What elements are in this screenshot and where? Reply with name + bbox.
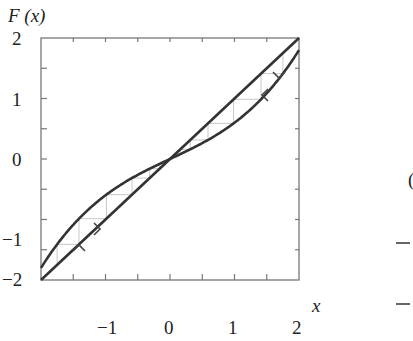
x-tick-label: 0 — [164, 317, 174, 338]
y-tick-label: 1 — [12, 89, 22, 110]
x-axis-title: x — [311, 295, 321, 316]
neighbor-panel-fragment: ( — [396, 169, 413, 304]
x-tick-label: 1 — [228, 317, 238, 338]
x-tick-label: 2 — [292, 317, 302, 338]
y-tick-label: 0 — [12, 149, 22, 170]
plot-area — [41, 38, 299, 280]
y-tick-label: −1 — [2, 229, 22, 250]
cobweb-chart: F (x) 2 1 0 −1 −2 −1 0 1 2 x ( — [0, 0, 413, 341]
y-tick-label: 2 — [12, 28, 22, 49]
y-axis-title: F (x) — [7, 5, 45, 27]
x-tick-labels: −1 0 1 2 — [97, 317, 302, 338]
y-tick-label: −2 — [2, 269, 22, 290]
neighbor-paren: ( — [408, 169, 413, 191]
map-curve — [41, 50, 299, 268]
x-tick-label: −1 — [97, 317, 117, 338]
y-tick-labels: 2 1 0 −1 −2 — [2, 28, 22, 290]
